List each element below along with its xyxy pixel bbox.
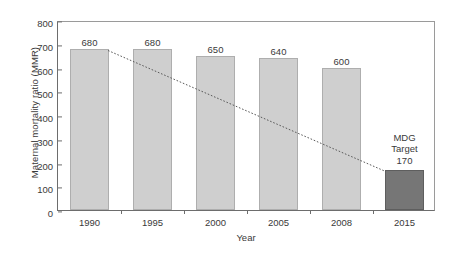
x-tick-label-1990: 1990 — [79, 217, 100, 228]
y-tick-300: 300 — [37, 132, 58, 150]
mdg-target-annotation: MDGTarget170 — [391, 132, 417, 167]
y-tick-mark — [58, 93, 62, 94]
x-tick-label-2005: 2005 — [268, 217, 289, 228]
bar-1990 — [70, 49, 109, 211]
y-tick-label: 700 — [37, 42, 58, 53]
y-tick-label: 800 — [37, 18, 58, 29]
y-tick-mark — [58, 69, 62, 70]
bar-2008 — [322, 68, 361, 211]
x-tick-mark — [373, 210, 374, 214]
x-tick-label-1995: 1995 — [142, 217, 163, 228]
x-tick-label-2008: 2008 — [331, 217, 352, 228]
bar-value-1990: 680 — [82, 37, 98, 48]
y-tick-mark — [58, 211, 62, 212]
y-tick-label: 0 — [48, 208, 58, 219]
y-tick-mark — [58, 21, 62, 22]
x-tick-label-2000: 2000 — [205, 217, 226, 228]
y-tick-label: 200 — [37, 161, 58, 172]
bar-2000 — [196, 56, 235, 210]
y-tick-label: 300 — [37, 137, 58, 148]
y-tick-500: 500 — [37, 84, 58, 102]
y-tick-200: 200 — [37, 156, 58, 174]
y-tick-100: 100 — [37, 179, 58, 197]
bar-value-1995: 680 — [145, 37, 161, 48]
trend-line-svg — [58, 22, 436, 212]
bar-value-2005: 640 — [271, 46, 287, 57]
x-tick-label-2015: 2015 — [394, 217, 415, 228]
y-tick-mark — [58, 164, 62, 165]
mdg-annotation-line2: Target — [391, 143, 417, 155]
y-tick-800: 800 — [37, 13, 58, 31]
x-axis-title: Year — [57, 232, 435, 243]
bar-2005 — [259, 58, 298, 210]
x-tick-mark — [184, 210, 185, 214]
y-tick-700: 700 — [37, 37, 58, 55]
x-tick-mark — [310, 210, 311, 214]
y-tick-label: 400 — [37, 113, 58, 124]
x-tick-mark — [247, 210, 248, 214]
chart-figure: Maternal mortality ratio (MMR) 010020030… — [0, 0, 458, 254]
bar-2015 — [385, 170, 424, 210]
y-tick-mark — [58, 140, 62, 141]
y-tick-mark — [58, 45, 62, 46]
x-tick-mark — [121, 210, 122, 214]
y-tick-label: 100 — [37, 184, 58, 195]
y-tick-label: 500 — [37, 89, 58, 100]
bar-value-2015: 170 — [391, 155, 417, 167]
y-tick-400: 400 — [37, 108, 58, 126]
bar-value-2008: 600 — [334, 56, 350, 67]
y-tick-label: 600 — [37, 66, 58, 77]
y-tick-mark — [58, 116, 62, 117]
y-tick-600: 600 — [37, 61, 58, 79]
bar-value-2000: 650 — [208, 44, 224, 55]
y-tick-0: 0 — [48, 203, 58, 221]
y-tick-mark — [58, 188, 62, 189]
bar-1995 — [133, 49, 172, 211]
mdg-annotation-line1: MDG — [391, 132, 417, 144]
plot-area: 0100200300400500600700800 19901995200020… — [57, 21, 435, 211]
